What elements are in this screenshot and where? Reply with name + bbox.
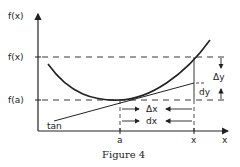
function-curve [48,40,210,100]
y-axis-label: f(x) [8,11,24,21]
tangent-label: tan [47,121,62,131]
figure-caption: Figure 4 [102,149,145,160]
y-tick-fa-label: f(a) [8,95,24,105]
tangent-line [54,83,194,121]
delta-x-label: Δx [146,104,158,114]
derivative-diagram: f(x) f(x) f(a) tan Δx dx Δy [0,0,240,167]
delta-y-label: Δy [213,72,225,82]
dy-label: dy [199,87,211,97]
x-axis-label: x [222,135,228,145]
dx-label: dx [146,116,158,126]
x-tick-x-label: x [191,135,197,145]
y-tick-fx-label: f(x) [8,52,24,62]
x-tick-a-label: a [117,135,123,145]
